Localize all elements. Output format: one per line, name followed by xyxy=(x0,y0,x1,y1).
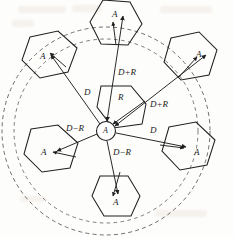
label-cell-A-top: A xyxy=(112,10,118,19)
label-cell-A-bottom-right: A xyxy=(194,148,200,157)
label-d-upper-left: D xyxy=(84,88,91,97)
hex-cell-bottom xyxy=(92,176,140,216)
label-cell-A-top-right: A xyxy=(196,50,202,59)
label-d-plus-r-top: D+R xyxy=(118,68,136,77)
label-cell-A-bottom: A xyxy=(113,198,119,207)
label-d-minus-r-bottom: D−R xyxy=(113,148,131,157)
label-d-minus-r-left: D−R xyxy=(66,124,84,133)
leader-d-right xyxy=(116,133,186,147)
label-d-plus-r-right: D+R xyxy=(150,100,168,109)
label-point-A: A xyxy=(103,127,108,135)
hex-cells xyxy=(22,0,217,216)
leader-d-minus-r-left xyxy=(57,134,97,151)
hex-cell-top-left xyxy=(22,31,77,78)
label-d-right: D xyxy=(150,126,157,135)
leader-d-plus-r-right xyxy=(115,55,206,126)
label-cell-A-bottom-left: A xyxy=(41,148,47,157)
leader-top-right-cell-A xyxy=(178,57,197,78)
figure-canvas: A R D+R D+R D D D−R D−R A A A A A A xyxy=(0,0,234,236)
leader-radius-R xyxy=(113,101,145,124)
label-cell-A-top-left: A xyxy=(40,52,46,61)
label-radius-R: R xyxy=(118,93,124,102)
hex-cell-top-right xyxy=(164,32,217,80)
leader-d-upper-left xyxy=(51,55,100,124)
leader-top-cell-A xyxy=(113,22,116,45)
leader-bottom-left-cell-A xyxy=(53,152,76,157)
hex-cell-top xyxy=(90,0,142,45)
